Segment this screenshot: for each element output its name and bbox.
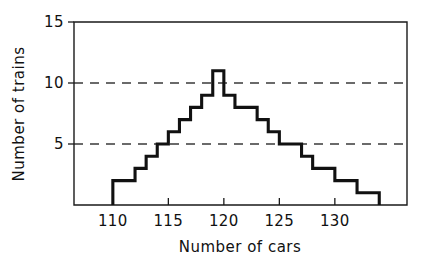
chart-canvas: 51015 110115120125130 Number of cars Num… <box>0 0 447 262</box>
histogram-figure: 51015 110115120125130 Number of cars Num… <box>0 0 447 262</box>
y-tick-label-10: 10 <box>44 74 64 92</box>
x-tick-label-125: 125 <box>264 212 294 230</box>
x-axis-title: Number of cars <box>179 238 302 256</box>
x-tick-label-120: 120 <box>209 212 239 230</box>
y-tick-label-5: 5 <box>54 135 64 153</box>
y-axis-title: Number of trains <box>10 47 28 182</box>
x-tick-label-110: 110 <box>98 212 128 230</box>
x-tick-label-130: 130 <box>320 212 350 230</box>
x-tick-label-115: 115 <box>153 212 183 230</box>
y-tick-label-15: 15 <box>44 13 64 31</box>
